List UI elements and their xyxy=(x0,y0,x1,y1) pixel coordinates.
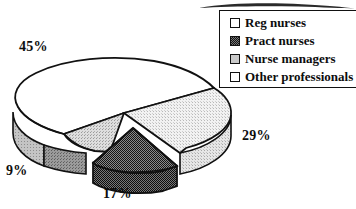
legend-label-other-professionals: Other professionals xyxy=(245,70,353,84)
legend-label-pract-nurses: Pract nurses xyxy=(245,34,315,48)
legend-swatch-white-icon xyxy=(230,18,240,28)
legend-swatch-dark-dither-icon xyxy=(230,36,240,46)
slice-label-other-professionals: 29% xyxy=(242,128,271,144)
legend-swatch-light-gray-icon xyxy=(230,54,240,64)
slice-label-pract-nurses: 17% xyxy=(103,186,132,202)
pie-3d-body xyxy=(13,58,231,193)
legend-item-nurse-managers: Nurse managers xyxy=(230,50,356,68)
legend-item-pract-nurses: Pract nurses xyxy=(230,32,356,50)
legend-label-reg-nurses: Reg nurses xyxy=(245,16,306,30)
legend-swatch-white-icon xyxy=(230,72,240,82)
legend-item-reg-nurses: Reg nurses xyxy=(230,14,356,32)
chart-legend: Reg nurses Pract nurses Nurse managers O… xyxy=(219,10,356,88)
pie-chart-figure: 45% 29% 17% 9% Reg nurses Pract nurses N… xyxy=(0,0,356,209)
slice-label-reg-nurses: 45% xyxy=(19,39,48,55)
legend-item-other-professionals: Other professionals xyxy=(230,68,356,86)
slice-label-nurse-managers: 9% xyxy=(6,163,27,179)
legend-label-nurse-managers: Nurse managers xyxy=(245,52,336,66)
slice-side-nurse-managers xyxy=(44,145,86,174)
